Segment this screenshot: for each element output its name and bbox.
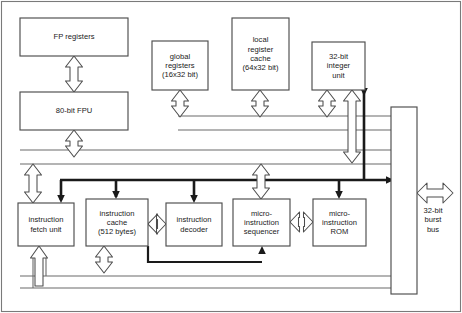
- block-rect-burst-bus-bar: [391, 107, 417, 294]
- cpu-block-diagram: FP registers 80-bit FPU global registers…: [0, 0, 462, 313]
- lower-bus-lines: [20, 276, 391, 288]
- arrow-fpu-bus: [66, 130, 83, 157]
- arrowhead-decoder: [190, 195, 198, 203]
- arrow-iu-bus-upper: [319, 90, 336, 117]
- block-rect-instruction-decoder: [166, 203, 222, 246]
- block-rect-micro-sequencer: [233, 199, 290, 246]
- block-rect-local-register-cache: [232, 18, 289, 90]
- arrowhead-sequencer-bottom: [258, 246, 266, 254]
- arrow-sequencer-rom-right: [304, 212, 314, 232]
- arrow-fpreg-fpu: [66, 56, 83, 92]
- decoder-to-sequencer-path: [148, 246, 262, 262]
- arrow-cache-lower: [96, 246, 113, 273]
- arrowhead-fetch: [57, 195, 65, 203]
- block-rect-integer-unit: [312, 42, 365, 90]
- arrow-cache-decoder-right: [157, 214, 167, 234]
- block-rect-instruction-fetch: [18, 203, 74, 246]
- diagram-canvas: [0, 0, 462, 313]
- arrow-bus-sequencer: [253, 164, 270, 199]
- arrow-localcache-bus: [252, 90, 269, 117]
- block-rect-global-registers: [152, 41, 208, 90]
- arrow-iu-bus-lower: [344, 90, 361, 163]
- arrow-globalreg-bus: [172, 90, 189, 117]
- block-rect-fpu: [20, 92, 128, 130]
- arrow-burst-bus: [417, 183, 453, 203]
- block-rect-instruction-cache: [86, 199, 148, 246]
- arrow-bus-fetchunit: [25, 164, 42, 203]
- arrowhead-rom: [335, 191, 343, 199]
- arrowhead-cache: [112, 191, 120, 199]
- block-rect-micro-rom: [313, 199, 366, 246]
- arrow-sequencer-rom-left: [290, 212, 300, 232]
- block-rect-fp-registers: [20, 18, 128, 56]
